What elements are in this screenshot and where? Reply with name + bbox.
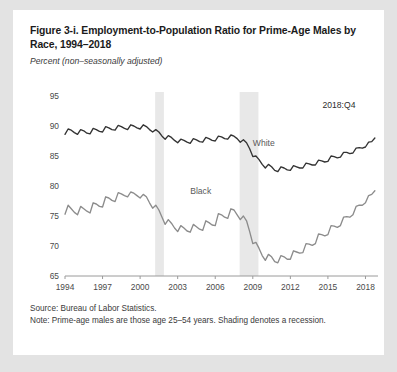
x-axis-tick-label: 2000 — [131, 282, 150, 292]
series-label-white: White — [253, 138, 275, 148]
figure-note: Note: Prime-age males are those age 25–5… — [30, 316, 326, 325]
y-axis-tick-label: 90 — [50, 121, 60, 131]
x-axis-tick-label: 2012 — [281, 282, 300, 292]
y-axis-tick-label: 95 — [50, 91, 60, 101]
y-axis-tick-label: 80 — [50, 181, 60, 191]
figure-card: Figure 3-i. Employment-to-Population Rat… — [13, 10, 384, 355]
series-group — [65, 125, 375, 263]
x-axis-tick-label: 2006 — [206, 282, 225, 292]
figure-source: Source: Bureau of Labor Statistics. — [30, 304, 157, 313]
x-axis-tick-label: 2009 — [243, 282, 262, 292]
recession-shading-group — [155, 92, 258, 276]
chart-annotations: 2018:Q4WhiteBlack — [190, 100, 355, 196]
series-label-black: Black — [190, 186, 212, 196]
x-axis-tick-label: 2003 — [168, 282, 187, 292]
y-axis-tick-label: 75 — [50, 211, 60, 221]
x-axis-labels: 199419972000200320062009201220152018 — [56, 276, 375, 292]
x-axis-tick-label: 2018 — [356, 282, 375, 292]
y-axis-tick-label: 70 — [50, 241, 60, 251]
recession-band — [155, 92, 164, 276]
annotation-latest-period: 2018:Q4 — [322, 100, 355, 110]
y-axis-tick-label: 65 — [50, 271, 60, 281]
x-axis-tick-label: 2015 — [319, 282, 338, 292]
y-axis-tick-label: 85 — [50, 151, 60, 161]
x-axis-tick-label: 1994 — [56, 282, 75, 292]
recession-band — [240, 92, 259, 276]
y-axis-labels: 65707580859095 — [50, 91, 60, 281]
series-line-white — [65, 125, 375, 172]
x-axis-tick-label: 1997 — [93, 282, 112, 292]
series-line-black — [65, 191, 375, 263]
